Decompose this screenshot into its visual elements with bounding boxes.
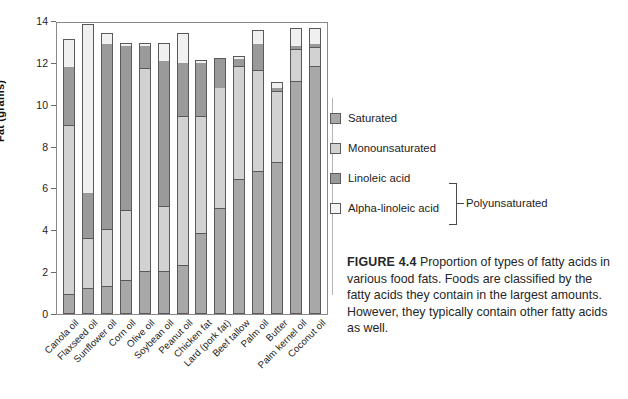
bar-segment-lin: [178, 63, 188, 117]
bar-slot: [305, 23, 324, 314]
bar-segment-mono: [178, 117, 188, 266]
stacked-bar[interactable]: [158, 43, 170, 314]
legend-label: Saturated: [348, 112, 397, 124]
bar-slot: [98, 23, 117, 314]
legend-swatch-sat: [330, 113, 341, 124]
stacked-bar[interactable]: [214, 58, 226, 314]
bar-segment-lin: [234, 59, 244, 67]
bar-segment-mono: [159, 207, 169, 272]
legend-label: Linoleic acid: [348, 172, 410, 184]
stacked-bar[interactable]: [177, 33, 189, 314]
stacked-bar[interactable]: [101, 33, 113, 314]
bar-segment-lin: [253, 44, 263, 71]
stacked-bar[interactable]: [309, 28, 321, 314]
stacked-bar[interactable]: [82, 24, 94, 314]
bar-segment-lin: [196, 63, 206, 117]
y-axis-tick-label: 4: [42, 224, 48, 236]
y-axis-title: Fat (grams): [0, 80, 6, 142]
legend-swatch-mono: [330, 143, 341, 154]
bar-segment-sat: [121, 281, 131, 314]
bar-slot: [211, 23, 230, 314]
bar-segment-ala: [178, 34, 188, 63]
bar-segment-sat: [196, 234, 206, 314]
legend-swatch-ala: [330, 203, 341, 214]
legend-swatch-lin: [330, 173, 341, 184]
bar-segment-ala: [102, 34, 112, 44]
x-axis-labels: Canola oilFlaxseed oilSunflower oilCorn …: [56, 315, 328, 399]
bar-slot: [60, 23, 79, 314]
figure-4-4: Fat (grams) 02468101214 Canola oilFlaxse…: [0, 0, 628, 399]
bar-segment-lin: [215, 59, 225, 88]
stacked-bar[interactable]: [120, 43, 132, 314]
bar-segment-lin: [83, 193, 93, 239]
legend-label: Alpha-linoleic acid: [348, 202, 439, 214]
legend-item-sat[interactable]: Saturated: [330, 103, 560, 133]
bar-segment-mono: [64, 126, 74, 296]
bar-slot: [230, 23, 249, 314]
bar-segment-mono: [196, 117, 206, 234]
stacked-bar[interactable]: [271, 82, 283, 314]
bar-segment-sat: [234, 180, 244, 314]
bar-segment-mono: [310, 48, 320, 67]
bar-slot: [173, 23, 192, 314]
bar-segment-sat: [102, 287, 112, 314]
bar-segment-lin: [159, 61, 169, 208]
stacked-bar[interactable]: [290, 28, 302, 314]
bar-segment-sat: [159, 272, 169, 314]
bar-segment-mono: [215, 88, 225, 209]
y-axis-tick-label: 10: [36, 99, 48, 111]
y-axis: Fat (grams) 02468101214: [0, 22, 56, 315]
bar-group: [57, 23, 327, 314]
bar-segment-ala: [310, 29, 320, 44]
bar-slot: [135, 23, 154, 314]
bar-segment-mono: [102, 230, 112, 287]
legend-label: Monounsaturated: [348, 142, 436, 154]
bar-segment-sat: [140, 272, 150, 314]
bar-slot: [249, 23, 268, 314]
legend-item-lin[interactable]: Linoleic acid: [330, 163, 560, 193]
polyunsaturated-label: Polyunsaturated: [466, 197, 548, 209]
bar-segment-lin: [140, 46, 150, 69]
bar-segment-mono: [140, 69, 150, 272]
legend-item-mono[interactable]: Monounsaturated: [330, 133, 560, 163]
y-axis-tick-label: 2: [42, 266, 48, 278]
y-axis-tick-label: 12: [36, 57, 48, 69]
bar-segment-sat: [64, 295, 74, 314]
stacked-bar[interactable]: [139, 43, 151, 314]
bar-segment-lin: [102, 44, 112, 230]
bar-segment-ala: [159, 44, 169, 61]
bar-slot: [286, 23, 305, 314]
figure-caption: FIGURE 4.4 Proportion of types of fatty …: [347, 254, 619, 337]
bar-segment-sat: [215, 209, 225, 314]
bar-segment-sat: [272, 163, 282, 314]
bar-segment-lin: [64, 67, 74, 126]
y-axis-tick-label: 14: [36, 15, 48, 27]
y-axis-tick-label: 6: [42, 182, 48, 194]
polyunsaturated-bracket-stem: [457, 203, 464, 204]
plot-frame: [56, 22, 328, 315]
figure-number: FIGURE 4.4: [347, 255, 416, 269]
bar-segment-ala: [291, 29, 301, 46]
bar-segment-sat: [291, 82, 301, 314]
bar-segment-mono: [291, 50, 301, 81]
bar-slot: [267, 23, 286, 314]
bar-segment-sat: [253, 172, 263, 314]
stacked-bar[interactable]: [252, 30, 264, 314]
bar-segment-sat: [178, 266, 188, 314]
bar-slot: [117, 23, 136, 314]
bar-segment-sat: [310, 67, 320, 314]
bar-slot: [154, 23, 173, 314]
bar-segment-sat: [83, 289, 93, 314]
stacked-bar[interactable]: [63, 39, 75, 314]
bar-segment-ala: [83, 25, 93, 192]
y-axis-tick-label: 0: [42, 308, 48, 320]
bar-segment-ala: [253, 31, 263, 44]
bar-segment-mono: [272, 92, 282, 163]
bar-segment-mono: [253, 71, 263, 171]
bar-slot: [192, 23, 211, 314]
bar-segment-mono: [83, 239, 93, 289]
stacked-bar[interactable]: [233, 56, 245, 314]
bar-segment-lin: [121, 46, 131, 211]
polyunsaturated-bracket: [449, 183, 457, 225]
stacked-bar[interactable]: [195, 60, 207, 314]
